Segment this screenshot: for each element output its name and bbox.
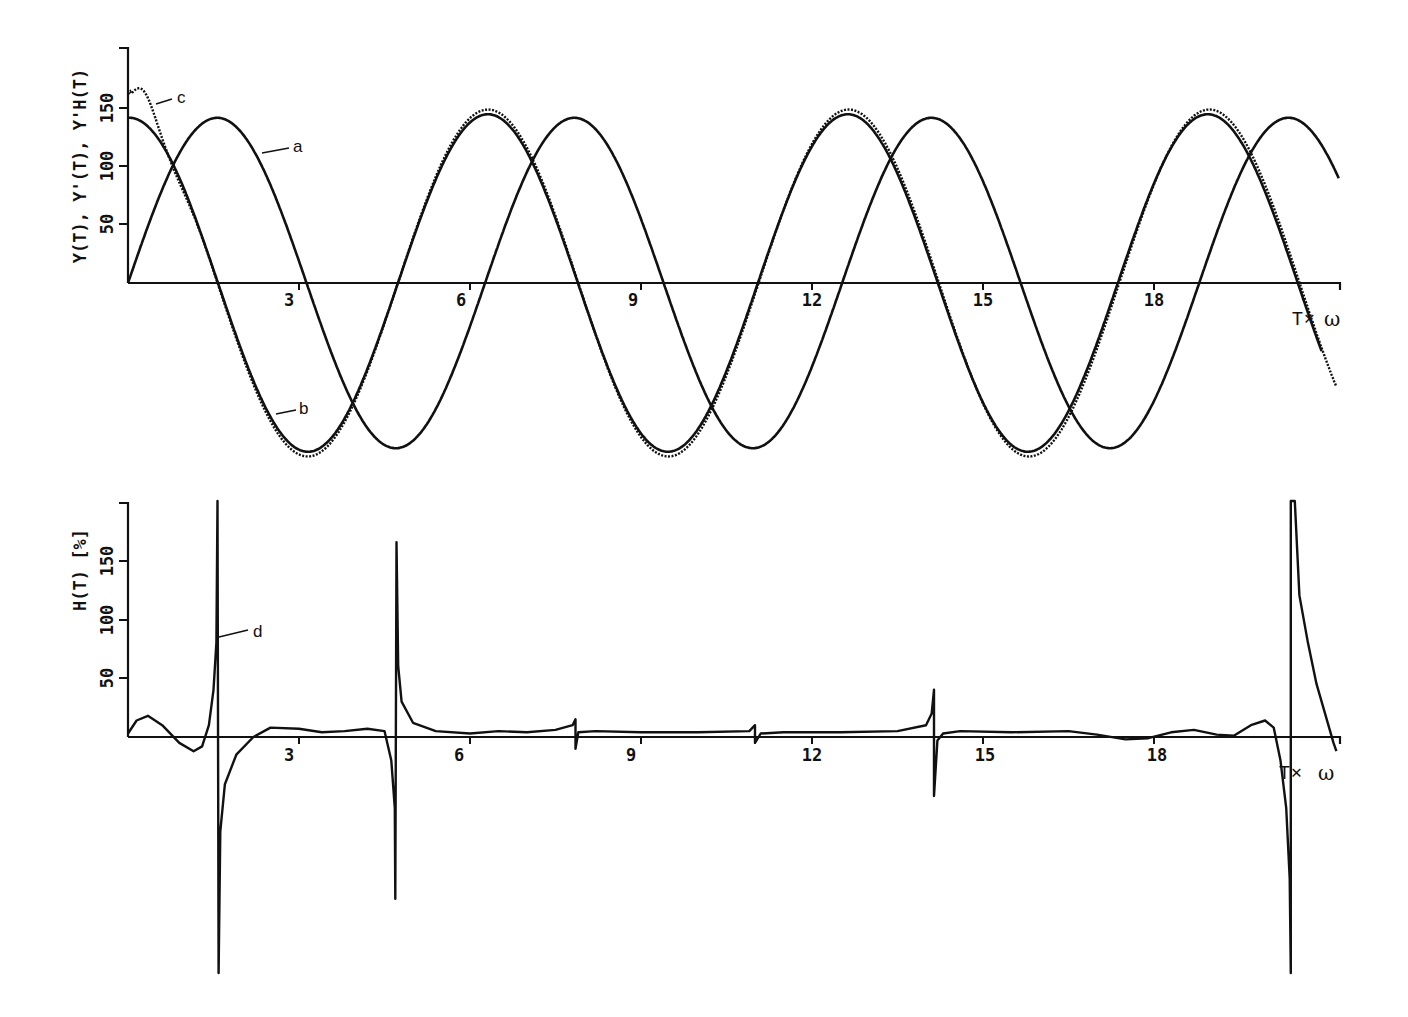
bottom-xtick-3: 3 bbox=[284, 745, 294, 765]
top-ytick-50: 50 bbox=[97, 214, 117, 234]
curve-b-leader bbox=[276, 410, 296, 414]
bottom-y-ticks bbox=[119, 561, 128, 678]
bottom-xtick-6: 6 bbox=[454, 745, 464, 765]
bottom-xtick-9: 9 bbox=[626, 745, 636, 765]
bottom-panel: 50 100 150 H(T) [%] 3 6 9 12 15 18 T ✕ ω… bbox=[70, 501, 1340, 973]
curve-d-leader bbox=[219, 630, 248, 637]
bottom-xtick-12: 12 bbox=[802, 745, 822, 765]
top-xtick-6: 6 bbox=[456, 290, 466, 310]
bottom-ytick-150: 150 bbox=[97, 546, 117, 577]
bottom-ytick-100: 100 bbox=[97, 605, 117, 636]
top-panel: 50 100 150 Y(T), Y'(T), Y'H(T) 3 6 9 12 … bbox=[70, 48, 1340, 457]
top-y-axis-title: Y(T), Y'(T), Y'H(T) bbox=[70, 69, 90, 263]
curve-b-label: b bbox=[299, 399, 308, 418]
curve-c-leader bbox=[156, 99, 172, 104]
bottom-x-axis-title-omega: ω bbox=[1318, 761, 1334, 785]
bottom-y-axis-title: H(T) [%] bbox=[70, 529, 90, 611]
top-xtick-12: 12 bbox=[802, 290, 822, 310]
top-xtick-9: 9 bbox=[628, 290, 638, 310]
top-xtick-3: 3 bbox=[284, 290, 294, 310]
bottom-xtick-15: 15 bbox=[975, 745, 995, 765]
bottom-ytick-50: 50 bbox=[97, 668, 117, 688]
top-x-axis-title-t: T bbox=[1292, 308, 1303, 329]
curve-d-label: d bbox=[253, 622, 262, 641]
bottom-x-axis-title-times: ✕ bbox=[1291, 761, 1302, 782]
top-xtick-18: 18 bbox=[1144, 290, 1164, 310]
top-x-axis-title-omega: ω bbox=[1324, 307, 1340, 331]
top-xtick-15: 15 bbox=[973, 290, 993, 310]
figure: 50 100 150 Y(T), Y'(T), Y'H(T) 3 6 9 12 … bbox=[0, 0, 1408, 1017]
top-ytick-100: 100 bbox=[97, 151, 117, 182]
curve-a-label: a bbox=[293, 137, 303, 156]
bottom-x-axis bbox=[128, 737, 1340, 744]
curve-c-label: c bbox=[177, 88, 186, 107]
curve-a-leader bbox=[262, 148, 289, 153]
bottom-xtick-18: 18 bbox=[1147, 745, 1167, 765]
top-y-ticks bbox=[119, 108, 128, 224]
top-ytick-150: 150 bbox=[97, 93, 117, 124]
